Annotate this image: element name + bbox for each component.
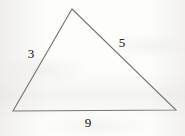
triangle-shape bbox=[0, 0, 185, 136]
side-label-left: 3 bbox=[28, 47, 35, 60]
triangle-figure: 3 5 9 bbox=[0, 0, 185, 136]
triangle-outline bbox=[13, 9, 176, 111]
side-label-right: 5 bbox=[119, 36, 126, 49]
side-label-base: 9 bbox=[85, 116, 92, 129]
